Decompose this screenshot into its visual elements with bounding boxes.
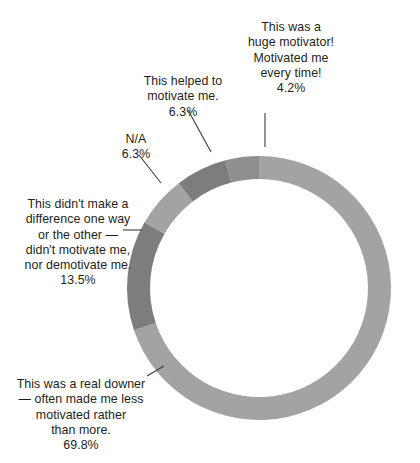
slice-label-no-difference: This didn't make a difference one way or… <box>4 182 152 304</box>
donut-chart: This was a huge motivator! Motivated me … <box>0 0 420 463</box>
slice-label-text: This didn't make a difference one way or… <box>25 197 132 272</box>
slice-label-na: N/A 6.3% <box>94 117 178 178</box>
slice-label-percent: 4.2% <box>229 81 353 96</box>
slice-label-text: N/A <box>126 132 147 146</box>
donut-slice-huge-motivator[interactable] <box>226 156 260 183</box>
slice-label-huge-motivator: This was a huge motivator! Motivated me … <box>229 5 353 111</box>
slice-label-text: This helped to motivate me. <box>144 74 223 103</box>
slice-label-percent: 6.3% <box>94 147 178 162</box>
slice-label-text: This was a real downer — often made me l… <box>17 377 146 437</box>
slice-label-percent: 69.8% <box>6 438 156 453</box>
slice-label-real-downer: This was a real downer — often made me l… <box>6 362 156 463</box>
slice-label-text: This was a huge motivator! Motivated me … <box>248 20 334 80</box>
donut-slice-group <box>127 156 391 420</box>
slice-label-percent: 13.5% <box>4 273 152 288</box>
